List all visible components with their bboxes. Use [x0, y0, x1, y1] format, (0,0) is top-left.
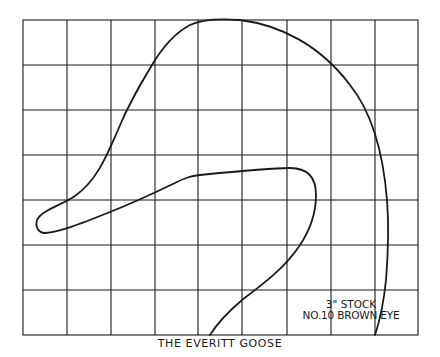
stock-note: 3" STOCK: [292, 299, 410, 310]
head-outline: [36, 19, 388, 335]
eye-note: NO.10 BROWN EYE: [292, 310, 410, 321]
grid-border: [23, 20, 418, 335]
diagram-title: THE EVERITT GOOSE: [0, 338, 440, 349]
grid: [23, 20, 418, 335]
